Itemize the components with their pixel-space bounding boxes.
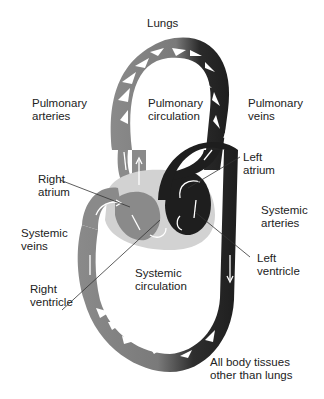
label-body-tissues: All body tissues other than lungs: [210, 356, 292, 382]
label-right-atrium: Right atrium: [38, 173, 70, 199]
label-systemic-circulation: Systemic circulation: [135, 267, 187, 293]
circulation-diagram: [0, 0, 324, 399]
label-systemic-veins: Systemic veins: [21, 227, 68, 253]
label-systemic-arteries: Systemic arteries: [261, 204, 308, 230]
label-left-atrium: Left atrium: [243, 151, 275, 177]
label-left-ventricle: Left ventricle: [257, 252, 300, 278]
label-right-ventricle: Right ventricle: [30, 283, 73, 309]
label-lungs: Lungs: [147, 17, 178, 30]
label-pulmonary-circulation: Pulmonary circulation: [148, 97, 203, 123]
label-pulmonary-arteries: Pulmonary arteries: [32, 97, 87, 123]
label-pulmonary-veins: Pulmonary veins: [248, 97, 303, 123]
